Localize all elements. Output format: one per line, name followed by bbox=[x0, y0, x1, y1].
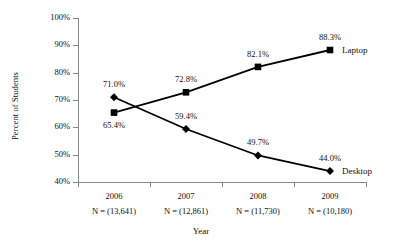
y-axis-tick-mark bbox=[73, 100, 78, 101]
series-label-desktop: Desktop bbox=[342, 166, 372, 176]
data-point-label: 82.1% bbox=[238, 50, 278, 59]
y-axis-tick-label: 50% bbox=[28, 150, 70, 159]
data-point-label: 65.4% bbox=[94, 121, 134, 130]
data-point-marker-diamond bbox=[182, 125, 190, 133]
x-axis-tick-mark bbox=[366, 182, 367, 187]
data-point-label: 71.0% bbox=[94, 80, 134, 89]
series-label-laptop: Laptop bbox=[342, 45, 368, 55]
x-axis-sample-size-label: N = (10,180) bbox=[288, 206, 372, 216]
data-point-marker-square bbox=[327, 47, 334, 54]
x-axis-tick-mark bbox=[78, 182, 79, 187]
y-axis-tick-label: 40% bbox=[28, 177, 70, 186]
data-point-marker-diamond bbox=[326, 167, 334, 175]
y-axis-tick-mark bbox=[73, 73, 78, 74]
y-axis-tick-label: 70% bbox=[28, 95, 70, 104]
data-point-label: 59.4% bbox=[166, 112, 206, 121]
data-point-label: 88.3% bbox=[310, 33, 350, 42]
x-axis-tick-mark bbox=[294, 182, 295, 187]
y-axis-tick-label: 80% bbox=[28, 68, 70, 77]
data-point-label: 49.7% bbox=[238, 138, 278, 147]
data-point-label: 44.0% bbox=[310, 154, 350, 163]
y-axis-line bbox=[78, 18, 79, 183]
y-axis-tick-label: 90% bbox=[28, 40, 70, 49]
y-axis-tick-mark bbox=[73, 18, 78, 19]
data-point-marker-diamond bbox=[110, 93, 118, 101]
y-axis-tick-mark bbox=[73, 45, 78, 46]
x-axis-title: Year bbox=[161, 226, 241, 236]
line-chart: Percent of Students 100%90%80%70%60%50%4… bbox=[0, 0, 402, 250]
y-axis-tick-mark bbox=[73, 127, 78, 128]
x-axis-category-label: 2009 bbox=[288, 191, 372, 201]
data-point-marker-square bbox=[183, 89, 190, 96]
series-line-desktop bbox=[114, 97, 330, 171]
data-point-marker-diamond bbox=[254, 151, 262, 159]
y-axis-tick-label: 60% bbox=[28, 122, 70, 131]
data-point-marker-square bbox=[255, 64, 262, 71]
y-axis-title: Percent of Students bbox=[10, 56, 26, 156]
data-point-label: 72.8% bbox=[166, 75, 206, 84]
data-point-marker-square bbox=[111, 109, 118, 116]
x-axis-tick-mark bbox=[150, 182, 151, 187]
series-line-laptop bbox=[114, 50, 330, 113]
x-axis-tick-mark bbox=[222, 182, 223, 187]
y-axis-tick-label: 100% bbox=[28, 13, 70, 22]
y-axis-tick-mark bbox=[73, 155, 78, 156]
